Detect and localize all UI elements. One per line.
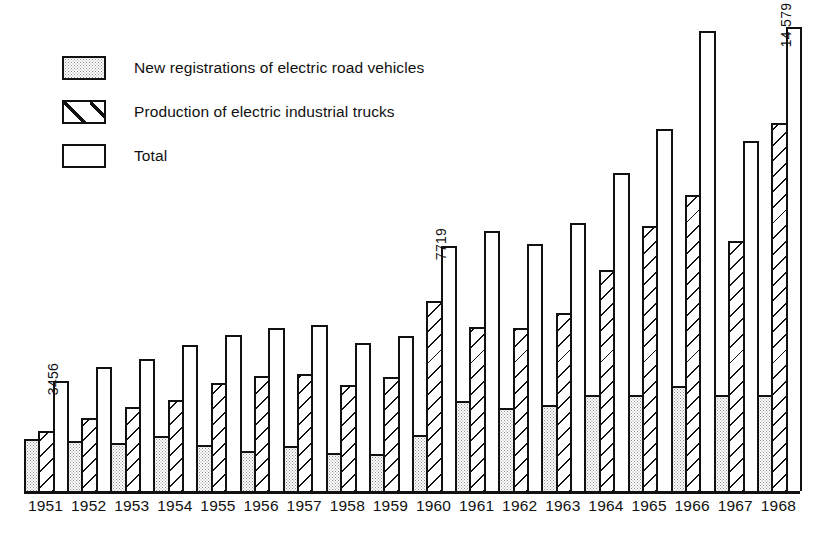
bar-chart: New registrations of electric road vehic… [0, 0, 825, 539]
bar-group-1964 [584, 14, 627, 491]
bar-value-label-1960: 7719 [433, 227, 449, 259]
bar-group-1951: 3456 [24, 14, 67, 491]
bar-group-1957 [283, 14, 326, 491]
x-tick-1964: 1964 [584, 497, 627, 525]
bar-group-1965 [628, 14, 671, 491]
bar-group-1967 [714, 14, 757, 491]
x-tick-1958: 1958 [326, 497, 369, 525]
x-tick-1952: 1952 [67, 497, 110, 525]
x-tick-1960: 1960 [412, 497, 455, 525]
bar-group-1966 [671, 14, 714, 491]
bar-group-1961 [455, 14, 498, 491]
bar-group-1962 [498, 14, 541, 491]
bar-group-1956 [240, 14, 283, 491]
bar-group-1959 [369, 14, 412, 491]
bar-group-1958 [326, 14, 369, 491]
x-tick-1956: 1956 [240, 497, 283, 525]
x-tick-1967: 1967 [714, 497, 757, 525]
x-tick-1959: 1959 [369, 497, 412, 525]
x-tick-1965: 1965 [628, 497, 671, 525]
x-tick-1951: 1951 [24, 497, 67, 525]
x-tick-1954: 1954 [153, 497, 196, 525]
bar-group-1960: 7719 [412, 14, 455, 491]
x-axis-tick-labels: 1951195219531954195519561957195819591960… [24, 497, 800, 525]
x-tick-1961: 1961 [455, 497, 498, 525]
bar-group-1968: 14 579 [757, 14, 800, 491]
x-tick-1953: 1953 [110, 497, 153, 525]
bar-group-1963 [541, 14, 584, 491]
x-tick-1963: 1963 [541, 497, 584, 525]
x-tick-1962: 1962 [498, 497, 541, 525]
plot-area: 3456771914 579 [24, 14, 800, 494]
bar-group-1955 [196, 14, 239, 491]
bar-value-label-1968: 14 579 [778, 3, 794, 48]
bar-group-1952 [67, 14, 110, 491]
bar-groups: 3456771914 579 [24, 14, 800, 491]
x-tick-1955: 1955 [196, 497, 239, 525]
bar-value-label-1951: 3456 [45, 363, 61, 395]
x-tick-1957: 1957 [283, 497, 326, 525]
bar-group-1954 [153, 14, 196, 491]
x-axis-baseline [24, 491, 800, 494]
x-tick-1966: 1966 [671, 497, 714, 525]
x-tick-1968: 1968 [757, 497, 800, 525]
bar-group-1953 [110, 14, 153, 491]
bar-1968-total: 14 579 [786, 27, 802, 491]
